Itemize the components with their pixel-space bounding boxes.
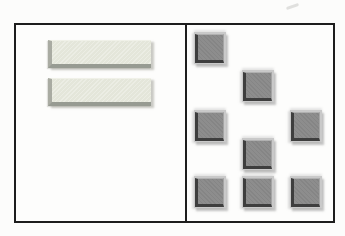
square-tile bbox=[194, 176, 226, 208]
square-tile bbox=[194, 110, 226, 142]
square-tile bbox=[242, 138, 274, 170]
square-tile bbox=[194, 32, 226, 64]
square-tile bbox=[242, 176, 274, 208]
horizontal-bar bbox=[48, 78, 151, 106]
figure bbox=[0, 0, 345, 236]
scan-artifact bbox=[286, 3, 299, 10]
square-tile bbox=[242, 70, 274, 102]
square-tile bbox=[290, 176, 322, 208]
square-tile bbox=[290, 110, 322, 142]
horizontal-bar bbox=[48, 40, 151, 68]
panel-divider bbox=[185, 23, 187, 223]
